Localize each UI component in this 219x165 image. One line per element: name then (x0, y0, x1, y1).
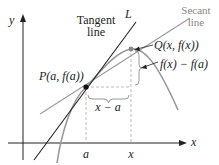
x-axis-arrow-icon (179, 140, 187, 146)
point-q-label: Q(x, f(x)) (154, 38, 199, 52)
tangent-secant-diagram: y x Tangent line L Secant line P(a, f(a)… (0, 0, 219, 165)
run-label: x − a (94, 100, 120, 114)
line-l-label: L (124, 7, 132, 21)
point-q-dot (129, 47, 134, 52)
point-p-label: P(a, f(a)) (38, 69, 84, 83)
tick-x-label: x (127, 147, 134, 161)
secant-label-line1: Secant (181, 4, 210, 16)
tangent-line (34, 22, 136, 160)
y-axis-arrow-icon (20, 14, 26, 22)
point-p-dot (83, 84, 88, 89)
rise-brace (135, 51, 142, 85)
secant-label-line2: line (188, 16, 205, 28)
tangent-label-line2: line (87, 25, 105, 39)
rise-label: f(x) − f(a) (160, 57, 208, 71)
y-axis-label: y (8, 13, 15, 27)
tick-a-label: a (83, 147, 89, 161)
x-axis-label: x (190, 135, 197, 149)
